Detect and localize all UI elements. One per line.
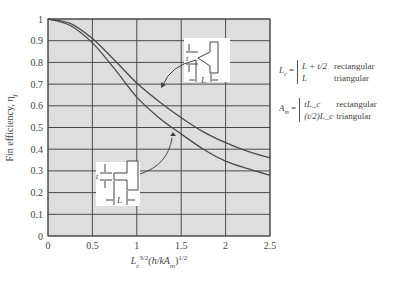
am-definition: Am = tL_crectangular (t/2)L_ctriangular (279, 98, 377, 122)
chart: tLtL 00.511.522.5 00.10.20.30.40.50.60.7… (0, 0, 398, 283)
x-tick-labels: 00.511.522.5 (46, 240, 277, 251)
am-case-triangular: (t/2)L_ctriangular (304, 110, 376, 122)
lc-case-triangular: Ltriangular (302, 72, 374, 84)
x-tick-label: 2.5 (264, 240, 277, 251)
x-tick-label: 1.5 (175, 240, 188, 251)
y-tick-label: 0.1 (31, 209, 44, 220)
inset-l-label: L (200, 75, 206, 85)
x-axis-label: Lc3/2(h/kAm)1/2 (130, 254, 188, 270)
x-tick-label: 2 (223, 240, 228, 251)
am-case-rectangular: tL_crectangular (304, 98, 376, 110)
y-tick-label: 0.2 (31, 187, 44, 198)
y-tick-label: 0.9 (31, 35, 44, 46)
lc-definition: Lc = L + t/2rectangular Ltriangular (279, 60, 375, 84)
am-symbol: Am = (279, 102, 296, 118)
y-tick-label: 1 (38, 14, 43, 25)
y-tick-label: 0.3 (31, 165, 44, 176)
inset-l-label: L (116, 195, 122, 205)
x-tick-label: 0.5 (86, 240, 99, 251)
y-tick-label: 0.5 (31, 122, 44, 133)
y-axis-label: Fin efficiency, ηf (4, 93, 19, 161)
y-tick-label: 0.8 (31, 57, 44, 68)
x-tick-label: 1 (134, 240, 139, 251)
y-tick-label: 0.4 (31, 144, 44, 155)
y-tick-labels: 00.10.20.30.40.50.60.70.80.91 (31, 14, 44, 242)
x-tick-label: 0 (46, 240, 51, 251)
lc-case-rectangular: L + t/2rectangular (302, 60, 374, 72)
lc-symbol: Lc = (279, 64, 294, 80)
y-tick-label: 0.6 (31, 100, 44, 111)
y-tick-label: 0.7 (31, 79, 44, 90)
y-tick-label: 0 (38, 231, 43, 242)
